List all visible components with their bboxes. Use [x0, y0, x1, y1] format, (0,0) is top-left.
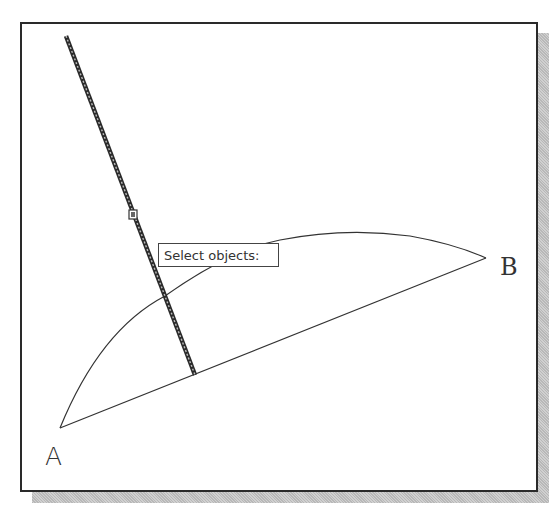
- point-label-b: B: [500, 255, 518, 279]
- pickbox-cursor-inner: [131, 212, 135, 217]
- point-label-a: A: [45, 444, 62, 469]
- chord-ab[interactable]: [60, 258, 486, 428]
- drawing-canvas[interactable]: [0, 0, 559, 516]
- command-tooltip: Select objects:: [158, 243, 279, 267]
